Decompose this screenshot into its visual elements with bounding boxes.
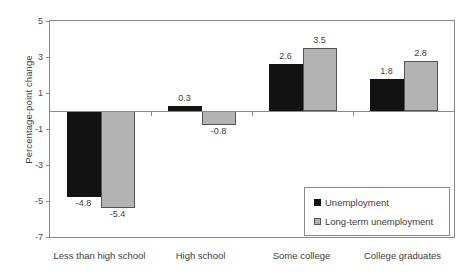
y-tick-label: -3: [35, 160, 43, 170]
bar-value-label: 0.3: [178, 93, 191, 103]
x-category-label: High school: [176, 250, 226, 261]
chart-legend: Unemployment Long-term unemployment: [304, 187, 450, 236]
bar-value-label: -5.4: [110, 209, 126, 219]
y-tick-mark: [46, 165, 50, 166]
y-tick-mark: [46, 129, 50, 130]
y-tick-mark: [46, 21, 50, 22]
x-category-label: Less than high school: [54, 250, 146, 261]
bar: [101, 111, 135, 208]
legend-item-label: Unemployment: [325, 197, 389, 208]
x-tick-mark: [151, 111, 152, 116]
y-tick-label: -7: [35, 232, 43, 242]
bar: [303, 48, 337, 111]
bar: [269, 64, 303, 111]
bar-value-label: 2.8: [414, 48, 427, 58]
legend-item-long-term-unemployment: Long-term unemployment: [314, 214, 441, 228]
y-tick-label: -1: [35, 124, 43, 134]
y-tick-mark: [46, 93, 50, 94]
bar: [67, 111, 101, 197]
black-square-icon: [314, 199, 321, 206]
bar: [202, 111, 236, 125]
y-tick-mark: [46, 237, 50, 238]
bar-value-label: 1.8: [380, 66, 393, 76]
gray-square-icon: [314, 218, 321, 225]
y-tick-label: 1: [38, 88, 43, 98]
x-tick-mark: [353, 111, 354, 116]
bar-value-label: 2.6: [279, 51, 292, 61]
y-tick-label: 5: [38, 16, 43, 26]
bar: [404, 61, 438, 111]
y-tick-mark: [46, 201, 50, 202]
x-category-label: College graduates: [364, 250, 441, 261]
bar: [370, 79, 404, 111]
y-tick-label: -5: [35, 196, 43, 206]
bar-value-label: -4.8: [76, 198, 92, 208]
y-tick-label: 3: [38, 52, 43, 62]
legend-item-unemployment: Unemployment: [314, 195, 441, 209]
x-tick-mark: [252, 111, 253, 116]
x-category-label: Some college: [273, 250, 331, 261]
bar-value-label: 3.5: [313, 35, 326, 45]
y-tick-mark: [46, 57, 50, 58]
legend-item-label: Long-term unemployment: [325, 216, 433, 227]
y-axis-title: Percentage-point change: [23, 0, 34, 220]
bar-chart: Percentage-point change 531-1-3-5-7-4.8-…: [0, 0, 467, 278]
bar-value-label: -0.8: [211, 126, 227, 136]
